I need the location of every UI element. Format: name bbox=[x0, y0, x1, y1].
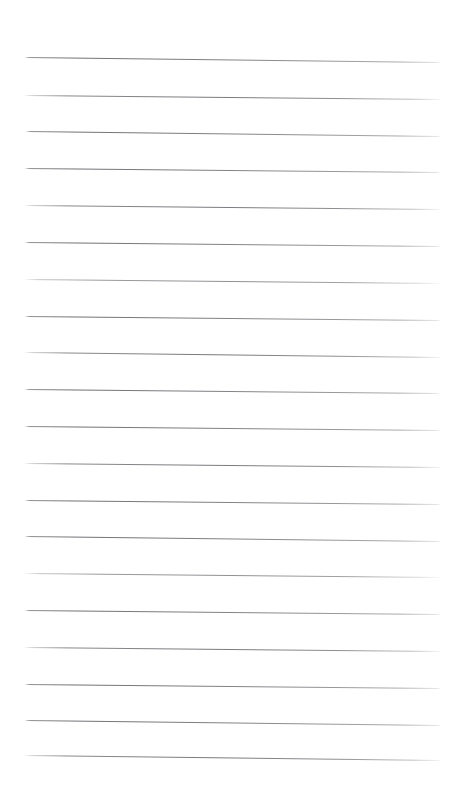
ruled-line-stroke bbox=[25, 573, 441, 578]
ruled-line-stroke bbox=[25, 755, 441, 761]
ruled-line bbox=[25, 755, 441, 760]
ruled-line-stroke bbox=[25, 426, 441, 431]
ruled-line bbox=[25, 647, 441, 651]
ruled-line-stroke bbox=[25, 279, 441, 284]
ruled-line bbox=[25, 279, 441, 283]
ruled-line-stroke bbox=[25, 168, 441, 173]
ruled-line-stroke bbox=[25, 316, 441, 321]
notebook-page bbox=[0, 0, 459, 812]
ruled-line bbox=[25, 205, 440, 209]
ruled-line bbox=[25, 352, 441, 357]
ruled-line bbox=[25, 426, 441, 430]
ruled-line bbox=[25, 500, 441, 504]
ruled-line bbox=[25, 610, 441, 614]
ruled-line bbox=[25, 95, 441, 99]
ruled-line bbox=[25, 316, 441, 320]
ruled-line bbox=[25, 573, 441, 577]
ruled-line-stroke bbox=[26, 131, 441, 137]
ruled-line bbox=[25, 168, 441, 172]
ruled-line bbox=[25, 389, 440, 393]
ruled-line bbox=[26, 131, 441, 136]
ruled-lines-layer bbox=[0, 0, 459, 812]
ruled-line-stroke bbox=[25, 536, 441, 542]
ruled-line-stroke bbox=[25, 242, 441, 247]
ruled-line-stroke bbox=[25, 352, 441, 358]
ruled-line-stroke bbox=[25, 500, 441, 505]
ruled-line-stroke bbox=[25, 205, 440, 210]
ruled-line bbox=[25, 536, 441, 541]
ruled-line-stroke bbox=[25, 389, 440, 394]
ruled-line bbox=[25, 720, 441, 725]
ruled-line bbox=[25, 57, 441, 62]
ruled-line-stroke bbox=[25, 684, 441, 689]
ruled-line-stroke bbox=[25, 720, 441, 726]
ruled-line-stroke bbox=[25, 647, 441, 652]
ruled-line-stroke bbox=[25, 57, 441, 63]
ruled-line-stroke bbox=[25, 95, 441, 100]
ruled-line bbox=[25, 242, 441, 246]
ruled-line bbox=[25, 684, 441, 688]
ruled-line-stroke bbox=[25, 463, 441, 468]
ruled-line-stroke bbox=[25, 610, 441, 615]
ruled-line bbox=[25, 463, 441, 467]
